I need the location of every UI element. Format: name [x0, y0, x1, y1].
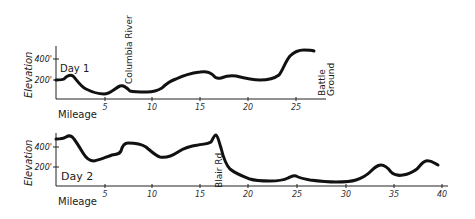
day1-xtick-label: 15 [195, 103, 205, 112]
day2-ytick-label-400: 400' [35, 143, 52, 152]
day1-label: Day 1 [60, 63, 89, 74]
day1-elevation-line [56, 50, 314, 94]
battle-ground-annotation-line2: Ground [326, 63, 336, 96]
day2-xtick-label: 35 [389, 190, 399, 199]
blair-rd-annotation: Blair Rd [214, 153, 224, 188]
day1-ytick-label-200: 200' [35, 76, 52, 85]
day2-xtick-label: 20 [243, 190, 253, 199]
day2-xtick-label: 25 [292, 190, 302, 199]
day2-panel: 400' 200' 5 10 15 20 25 30 35 40 Mileage… [23, 133, 448, 207]
day1-xtick-label: 5 [102, 103, 107, 112]
elevation-profile-chart: 400' 200' 5 10 15 20 25 Mileage Elevatio… [0, 0, 475, 219]
day2-ytick-label-200: 200' [35, 163, 52, 172]
day1-xtick-label: 10 [147, 103, 157, 112]
day2-xtick-label: 40 [437, 190, 447, 199]
day2-xtick-label: 5 [102, 190, 107, 199]
day1-xtick-label: 20 [243, 103, 253, 112]
day1-xlabel: Mileage [58, 109, 97, 120]
day2-elevation-line [56, 135, 438, 182]
day2-ylabel: Elevation [23, 140, 34, 186]
day2-xtick-label: 30 [341, 190, 351, 199]
day1-ytick-label-400: 400' [35, 55, 52, 64]
columbia-river-annotation: Columbia River [124, 15, 134, 84]
day2-xtick-label: 10 [147, 190, 157, 199]
day1-ylabel: Elevation [23, 52, 34, 98]
day2-label: Day 2 [61, 170, 93, 183]
day1-xtick-label: 25 [291, 103, 301, 112]
day1-panel: 400' 200' 5 10 15 20 25 Mileage Elevatio… [23, 15, 336, 120]
day2-xlabel: Mileage [58, 196, 97, 207]
day2-xtick-label: 15 [195, 190, 205, 199]
